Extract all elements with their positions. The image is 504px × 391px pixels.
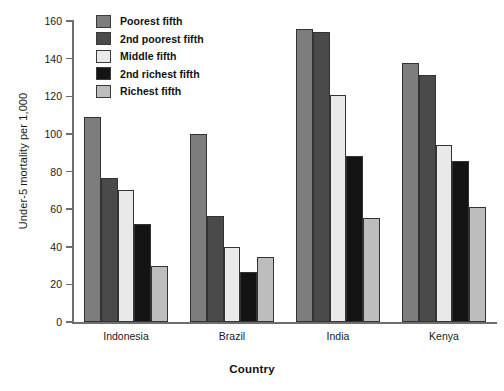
bar [296,29,313,322]
y-axis-tick-label: 160 [20,15,62,27]
bar [469,207,486,322]
legend-swatch-icon [96,15,111,28]
x-axis-title: Country [0,363,504,375]
bar [346,156,363,322]
bar-group [296,21,380,322]
legend-item-label: Richest fifth [120,85,181,97]
bar [207,216,224,322]
bar [363,218,380,322]
y-axis-tick-label: 0 [20,316,62,328]
x-axis-tick-label: Kenya [429,330,459,342]
y-axis-tick-label: 120 [20,90,62,102]
y-axis-tick [66,171,73,173]
y-axis-tick [66,133,73,135]
bar [101,178,118,322]
bar [419,75,436,322]
y-axis-tick [66,58,73,60]
bar [240,272,257,322]
bar [436,145,453,322]
bar [257,257,274,322]
y-axis-tick-label: 20 [20,278,62,290]
legend-swatch-icon [96,50,111,63]
y-axis-tick [66,246,73,248]
bar [224,247,241,322]
bar [452,161,469,322]
y-axis-tick-label: 140 [20,53,62,65]
bar [118,190,135,322]
y-axis-tick [66,96,73,98]
legend-swatch-icon [96,85,111,98]
y-axis-tick-label: 60 [20,203,62,215]
legend-item-label: 2nd richest fifth [120,68,200,80]
bar [84,117,101,322]
y-axis-tick [66,321,73,323]
legend-swatch-icon [96,32,111,45]
bar [330,95,347,322]
legend-item-label: Middle fifth [120,50,177,62]
x-axis-tick-label: Brazil [219,330,245,342]
legend-swatch-icon [96,67,111,80]
y-axis-tick-label: 80 [20,166,62,178]
bar [151,266,168,322]
bar-group [402,21,486,322]
y-axis-tick [66,284,73,286]
legend-item: 2nd richest fifth [96,67,204,81]
chart-legend: Poorest fifth2nd poorest fifthMiddle fif… [96,14,204,98]
y-axis-tick [66,20,73,22]
y-axis-tick-label: 100 [20,128,62,140]
x-axis-tick-label: India [327,330,350,342]
bar [190,134,207,322]
legend-item: Middle fifth [96,49,204,63]
x-axis-tick-label: Indonesia [103,330,149,342]
y-axis-tick [66,208,73,210]
x-axis-line [72,322,497,324]
legend-item-label: 2nd poorest fifth [120,33,204,45]
y-axis-title: Under-5 mortality per 1,000 [14,0,32,322]
legend-item: Poorest fifth [96,14,204,28]
legend-item-label: Poorest fifth [120,15,182,27]
bar [402,63,419,322]
legend-item: 2nd poorest fifth [96,32,204,46]
legend-item: Richest fifth [96,84,204,98]
bar [134,224,151,322]
y-axis-tick-label: 40 [20,241,62,253]
bar-chart: Under-5 mortality per 1,000 020406080100… [0,0,504,391]
bar [313,32,330,322]
